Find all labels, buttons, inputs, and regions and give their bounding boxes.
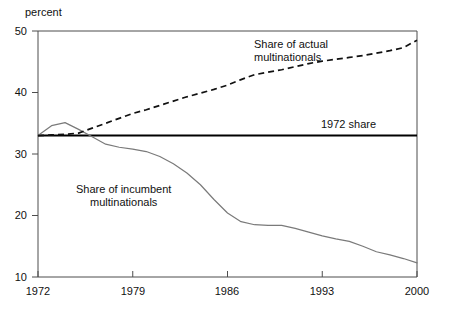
line-chart-plot	[0, 0, 450, 309]
annotation-incumbent-multinationals: Share of incumbent multinationals	[76, 183, 171, 209]
annotation-incumbent-line1: Share of incumbent	[76, 183, 171, 196]
x-tick-label-1986: 1986	[202, 285, 252, 297]
annotation-actual-line2: multinationals	[254, 51, 328, 64]
y-tick-label-50: 50	[2, 25, 27, 37]
annotation-actual-line1: Share of actual	[254, 38, 328, 51]
x-tick-label-2000: 2000	[392, 285, 442, 297]
x-tick-marks	[38, 271, 417, 277]
y-tick-label-30: 30	[2, 148, 27, 160]
y-tick-label-20: 20	[2, 209, 27, 221]
annotation-actual-multinationals: Share of actual multinationals	[254, 38, 328, 64]
x-tick-label-1979: 1979	[108, 285, 158, 297]
annotation-1972-share: 1972 share	[321, 118, 376, 131]
chart-figure: percent 50 40 30 20 10	[0, 0, 450, 309]
annotation-incumbent-line2: multinationals	[76, 196, 171, 209]
y-tick-label-10: 10	[2, 271, 27, 283]
x-tick-label-1993: 1993	[297, 285, 347, 297]
y-tick-label-40: 40	[2, 86, 27, 98]
y-tick-marks	[32, 31, 38, 277]
x-tick-label-1972: 1972	[13, 285, 63, 297]
